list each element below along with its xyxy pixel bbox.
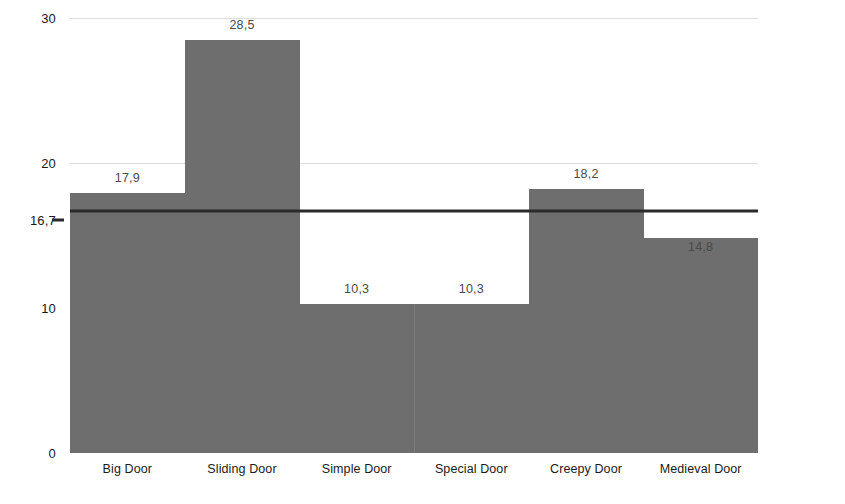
y-tick-label-10: 10 [41, 301, 56, 316]
value-label-simple-door: 10,3 [344, 282, 369, 296]
bar-simple-door[interactable] [299, 304, 414, 453]
x-tick-label-simple-door: Simple Door [322, 462, 392, 476]
plot-area: 17,9 28,5 10,3 10,3 18,2 14,8 [70, 18, 758, 453]
value-label-medieval-door: 14,8 [688, 240, 713, 254]
bar-medieval-door[interactable] [643, 238, 758, 453]
gridline-30 [70, 18, 758, 19]
value-label-big-door: 17,9 [115, 171, 140, 185]
y-tick-label-0: 0 [49, 446, 56, 461]
reference-line-tick-mark [52, 219, 64, 222]
value-label-special-door: 10,3 [459, 282, 484, 296]
value-label-creepy-door: 18,2 [573, 167, 598, 181]
value-label-sliding-door: 28,5 [229, 18, 254, 32]
reference-line [70, 209, 758, 212]
x-tick-label-big-door: Big Door [103, 462, 152, 476]
x-tick-label-creepy-door: Creepy Door [550, 462, 622, 476]
bar-special-door[interactable] [414, 304, 529, 453]
bar-separator-simple-special [414, 304, 415, 453]
bar-creepy-door[interactable] [529, 189, 644, 453]
y-tick-label-30: 30 [41, 11, 56, 26]
bar-sliding-door[interactable] [185, 40, 300, 453]
x-tick-label-medieval-door: Medieval Door [660, 462, 742, 476]
gridline-20 [70, 163, 758, 164]
x-tick-label-sliding-door: Sliding Door [207, 462, 276, 476]
y-tick-label-20: 20 [41, 156, 56, 171]
x-tick-label-special-door: Special Door [435, 462, 508, 476]
y-axis: 30 20 10 0 16,7 [0, 0, 70, 504]
bar-big-door[interactable] [70, 193, 185, 453]
bar-chart: 30 20 10 0 16,7 17,9 28,5 10,3 10,3 18,2… [0, 0, 845, 504]
